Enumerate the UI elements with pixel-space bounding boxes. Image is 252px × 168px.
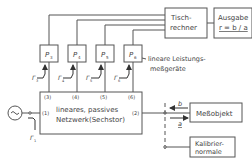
p3-sub: 3	[50, 55, 53, 60]
gamma4-sub: 4	[62, 79, 65, 83]
gamma3-sub: 3	[36, 79, 38, 83]
port-5: (5)	[100, 94, 107, 100]
port-1: (1)	[42, 110, 49, 116]
tischrechner-line1: Tisch-	[170, 14, 192, 22]
ausgabe-formula: r = b / a	[219, 24, 248, 32]
network-line2: Netzwerk(Sechstor)	[56, 116, 125, 124]
detector-note-line1: lineare Leistungs-	[148, 55, 206, 63]
messobjekt-label: Meßobjekt	[196, 110, 233, 118]
ausgabe-box	[214, 8, 252, 38]
six-port-diagram: Tisch- rechner Ausgabe r = b / a P 3 P 4…	[0, 0, 252, 168]
network-line1: lineares, passives	[56, 106, 118, 114]
port-2: (2)	[132, 110, 139, 116]
kalibrier-line2: normale	[195, 148, 222, 156]
gamma1-sub: 1	[34, 139, 36, 143]
port-3: (3)	[44, 94, 51, 100]
port-6: (6)	[128, 94, 135, 100]
tischrechner-box	[165, 8, 207, 38]
gamma6-sub: 6	[118, 79, 120, 83]
p5-sub: 5	[106, 55, 109, 60]
ausgabe-line1: Ausgabe	[218, 14, 248, 22]
detector-note-line2: meßgeräte	[150, 65, 186, 73]
wave-b: b	[178, 100, 182, 108]
gamma5-sub: 5	[90, 79, 92, 83]
tischrechner-line2: rechner	[170, 24, 197, 32]
port-4: (4)	[72, 94, 79, 100]
p4-sub: 4	[78, 55, 81, 60]
kalibrier-line1: Kalibrier-	[195, 140, 225, 148]
wave-a: a	[178, 120, 182, 128]
p6-sub: 6	[134, 55, 137, 60]
